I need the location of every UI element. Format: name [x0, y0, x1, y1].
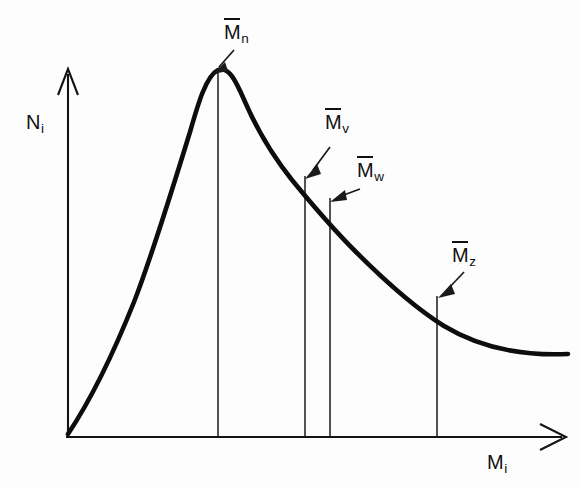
annotation-arrow-mv [305, 147, 330, 179]
overbar-mv-icon [325, 108, 341, 110]
distribution-curve [68, 69, 568, 434]
label-mv: Mv [325, 112, 348, 132]
arrow-head-mv-icon [305, 164, 321, 179]
overbar-mw-icon [357, 156, 373, 158]
arrow-line-mn [219, 50, 234, 67]
label-mw: Mw [357, 160, 383, 180]
annotation-arrow-mw [330, 189, 360, 202]
label-mn: Mn [224, 22, 248, 42]
label-mn-symbol: M [224, 22, 241, 42]
annotation-arrow-mz [438, 272, 464, 298]
y-axis [58, 69, 78, 437]
x-axis [66, 424, 566, 450]
arrow-head-mz-icon [438, 284, 455, 298]
molecular-weight-distribution-figure: Ni Mi Mn Mv Mw Mz [0, 0, 581, 487]
label-mw-subscript: w [374, 169, 384, 184]
overbar-mn-icon [224, 18, 240, 20]
label-mn-subscript: n [241, 31, 249, 46]
y-axis-label-symbol: N [26, 111, 40, 133]
label-mz-symbol: M [452, 245, 469, 265]
label-mw-symbol: M [357, 160, 374, 180]
overbar-mz-icon [452, 241, 468, 243]
x-axis-label: Mi [487, 452, 507, 472]
distribution-plot [0, 0, 581, 487]
label-mv-symbol: M [325, 112, 342, 132]
label-mz-subscript: z [469, 254, 476, 269]
label-mv-subscript: v [342, 121, 349, 136]
x-axis-label-subscript: i [504, 461, 507, 476]
label-mz: Mz [452, 245, 475, 265]
x-axis-label-symbol: M [487, 451, 504, 473]
y-axis-label-subscript: i [41, 121, 44, 136]
y-axis-label: Ni [26, 112, 43, 132]
arrow-head-mw-icon [330, 190, 347, 202]
